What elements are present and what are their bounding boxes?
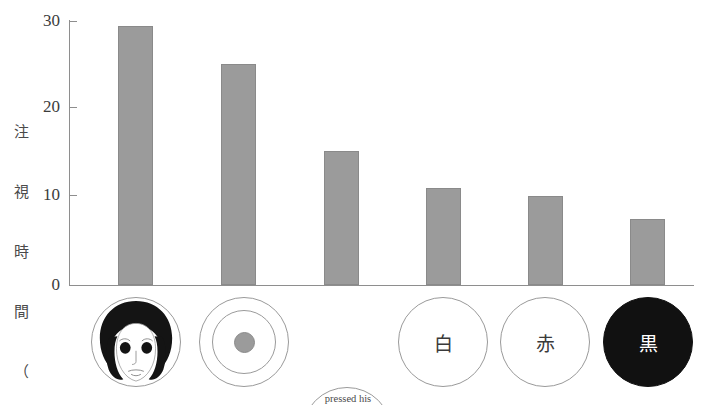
newsprint-text-lines: pressed his th and First La book of cond… xyxy=(302,393,392,405)
y-axis-title-char-0: 注 xyxy=(8,122,34,142)
bar-black xyxy=(630,219,665,285)
y-axis-line xyxy=(69,20,70,286)
bar-red xyxy=(528,196,563,285)
face-icon xyxy=(91,297,181,387)
newsprint-line-0: pressed his xyxy=(302,393,392,405)
black-circle-label: 黒 xyxy=(639,329,658,356)
bar-concentric-circles xyxy=(221,64,256,285)
y-axis-title-char-2: 時 xyxy=(8,242,34,262)
newsprint-text-icon: pressed his th and First La book of cond… xyxy=(302,387,392,405)
bar-white xyxy=(426,188,461,285)
y-tick-label-0: 0 xyxy=(30,276,60,293)
y-axis-title-char-4: （ xyxy=(8,362,34,382)
y-tick-mark-20 xyxy=(70,107,77,108)
y-tick-label-10: 10 xyxy=(30,186,60,203)
y-tick-mark-30 xyxy=(70,21,77,22)
white-circle-label: 白 xyxy=(434,329,453,356)
concentric-circles-center-dot xyxy=(234,332,255,353)
x-axis-line xyxy=(69,285,694,286)
y-tick-mark-10 xyxy=(70,195,77,196)
bar-chart: 注 視 時 間 （ % ） 30 20 10 0 xyxy=(0,0,709,405)
red-circle-label: 赤 xyxy=(536,329,555,356)
white-circle-icon: 白 xyxy=(398,297,488,387)
y-tick-label-20: 20 xyxy=(30,98,60,115)
bar-face xyxy=(118,26,153,285)
y-axis-title: 注 視 時 間 （ % ） xyxy=(8,82,34,405)
bar-newsprint-text xyxy=(324,151,359,285)
y-axis-title-char-3: 間 xyxy=(8,302,34,322)
y-tick-mark-0 xyxy=(70,285,77,286)
y-tick-label-30: 30 xyxy=(30,12,60,29)
face-icon-glyph xyxy=(92,298,180,386)
concentric-circles-icon xyxy=(199,297,289,387)
red-circle-icon: 赤 xyxy=(500,297,590,387)
black-circle-icon: 黒 xyxy=(603,297,693,387)
